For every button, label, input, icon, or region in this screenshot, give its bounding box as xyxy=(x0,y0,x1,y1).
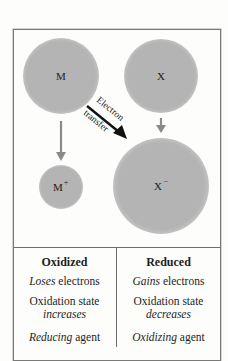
reduced-electrons-em: Gains xyxy=(133,275,160,287)
electron-transfer-diagram: M X M + X − Electron transfer xyxy=(0,0,228,247)
atom-m-plus-label: M xyxy=(53,181,63,193)
reduced-state-change: decreases xyxy=(117,308,220,321)
atom-x: X xyxy=(124,39,198,113)
oxidized-electrons-em: Loses xyxy=(29,275,55,287)
oxidized-state-label: Oxidation state xyxy=(13,295,116,308)
reduced-agent-em: Oxidizing xyxy=(132,331,177,343)
atom-m-label: M xyxy=(56,70,66,82)
reduced-header: Reduced xyxy=(117,256,220,269)
oxidized-header: Oxidized xyxy=(13,256,116,269)
atom-x-minus: X − xyxy=(113,138,209,234)
reduced-state-label: Oxidation state xyxy=(117,295,220,308)
atom-x-minus-charge: − xyxy=(164,177,169,186)
reduced-state-row: Oxidation state decreases xyxy=(117,295,220,321)
oxidation-arrow-icon xyxy=(56,121,66,161)
reduced-electrons-row: Gains electrons xyxy=(117,275,220,288)
oxidized-agent-em: Reducing xyxy=(29,331,72,343)
oxidized-electrons-row: Loses electrons xyxy=(13,275,116,288)
atom-m-plus: M + xyxy=(39,165,83,209)
oxidized-agent-text: agent xyxy=(72,331,100,343)
oxidized-state-row: Oxidation state increases xyxy=(13,295,116,321)
oxidized-agent-row: Reducing agent xyxy=(13,331,116,344)
oxidized-electrons-text: electrons xyxy=(55,275,99,287)
reduction-arrow-icon xyxy=(156,118,166,133)
reduced-column: Reduced Gains electrons Oxidation state … xyxy=(117,248,220,344)
atom-x-minus-label: X xyxy=(154,180,162,192)
atom-x-label: X xyxy=(157,70,165,82)
atom-m: M xyxy=(23,38,99,114)
oxidized-column: Oxidized Loses electrons Oxidation state… xyxy=(13,248,116,344)
reduced-agent-text: agent xyxy=(177,331,205,343)
atom-m-plus-charge: + xyxy=(64,178,69,187)
oxidized-state-change: increases xyxy=(13,308,116,321)
reduced-agent-row: Oxidizing agent xyxy=(117,331,220,344)
reduced-electrons-text: electrons xyxy=(160,275,204,287)
